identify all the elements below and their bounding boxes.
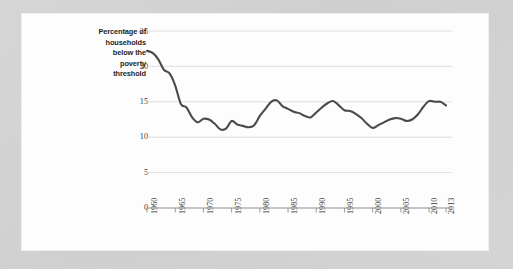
plot-area	[22, 14, 488, 250]
grid-lines	[147, 31, 452, 173]
poverty-rate-line-chart: Percentage of households below the pover…	[22, 14, 488, 250]
x-axis-tick-marks	[147, 208, 446, 213]
page-background: Percentage of households below the pover…	[0, 0, 513, 269]
chart-card: Percentage of households below the pover…	[22, 14, 488, 250]
poverty-rate-series-line	[147, 51, 446, 130]
